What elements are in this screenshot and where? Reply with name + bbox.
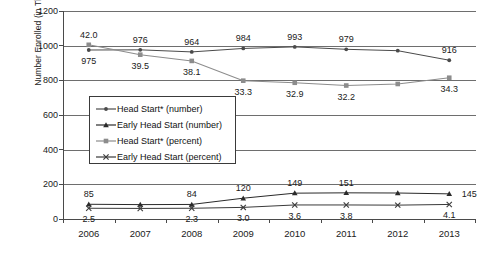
data-point-square	[395, 82, 400, 87]
x-tick-2009: 2009	[233, 228, 254, 239]
point-label: 33.3	[234, 87, 252, 97]
x-tickmark	[269, 219, 270, 223]
y-tickmark	[59, 115, 63, 116]
data-point-dot	[87, 48, 91, 52]
x-tickmark	[321, 219, 322, 223]
y-tickmark	[59, 11, 63, 12]
data-point-square	[447, 75, 452, 80]
series-line-0	[89, 47, 450, 60]
legend-item-0[interactable]: Head Start* (number)	[95, 101, 231, 117]
x-tickmark	[424, 219, 425, 223]
legend-item-3[interactable]: Early Head Start (percent)	[95, 149, 231, 165]
x-tick-2011: 2011	[336, 228, 356, 239]
x-tickmark	[372, 219, 373, 223]
data-point-square	[86, 43, 91, 48]
point-label: 85	[84, 189, 94, 199]
point-label: 42.0	[80, 30, 98, 40]
y-tickmark	[59, 80, 63, 81]
data-point-square	[292, 80, 297, 85]
data-point-dot	[138, 48, 142, 52]
data-point-dot	[104, 107, 108, 111]
x-tickmark	[218, 219, 219, 223]
legend-item-1[interactable]: Early Head Start (number)	[95, 117, 231, 133]
legend: Head Start* (number)Early Head Start (nu…	[89, 96, 236, 164]
y-tickmark	[59, 149, 63, 150]
x-tick-2010: 2010	[284, 228, 305, 239]
x-tick-2006: 2006	[78, 228, 99, 239]
point-label: 34.3	[440, 84, 458, 94]
x-tick-2007: 2007	[130, 228, 151, 239]
point-label: 3.8	[340, 211, 353, 221]
x-tick-2008: 2008	[181, 228, 202, 239]
legend-marker-x-icon	[95, 151, 117, 163]
legend-label: Early Head Start (percent)	[117, 151, 222, 163]
point-label: 979	[339, 34, 354, 44]
data-point-dot	[293, 45, 297, 49]
data-point-square	[344, 83, 349, 88]
y-tickmark	[59, 219, 63, 220]
point-label: 2.5	[82, 214, 95, 224]
point-label: 2.3	[185, 214, 198, 224]
data-point-dot	[396, 49, 400, 53]
legend-label: Early Head Start (number)	[117, 119, 222, 131]
point-label: 984	[236, 33, 251, 43]
data-point-square	[189, 59, 194, 64]
legend-label: Head Start* (percent)	[117, 135, 202, 147]
data-point-square	[104, 139, 109, 144]
point-label: 38.1	[183, 67, 201, 77]
legend-label: Head Start* (number)	[117, 103, 203, 115]
data-point-square	[138, 52, 143, 57]
point-label: 3.0	[237, 213, 250, 223]
data-point-dot	[447, 58, 451, 62]
data-point-dot	[344, 47, 348, 51]
legend-item-2[interactable]: Head Start* (percent)	[95, 133, 231, 149]
point-label: 149	[287, 178, 302, 188]
x-tickmark	[115, 219, 116, 223]
point-label: 976	[133, 35, 148, 45]
point-label: 145	[462, 189, 477, 199]
x-tickmark	[166, 219, 167, 223]
point-label: 32.9	[286, 89, 304, 99]
x-tickmark	[63, 219, 64, 223]
point-label: 916	[442, 45, 457, 55]
line-chart: Number Enrolled (in Thousands) 020040060…	[0, 0, 494, 253]
data-point-dot	[241, 47, 245, 51]
point-label: 39.5	[131, 61, 149, 71]
y-tickmark	[59, 45, 63, 46]
x-tick-2013: 2013	[439, 228, 460, 239]
legend-marker-dot-icon	[95, 103, 117, 115]
point-label: 3.6	[288, 211, 301, 221]
point-label: 32.2	[337, 92, 355, 102]
point-label: 120	[236, 183, 251, 193]
legend-marker-square-icon	[95, 135, 117, 147]
x-tick-2012: 2012	[387, 228, 408, 239]
point-label: 4.1	[443, 210, 456, 220]
point-label: 993	[287, 32, 302, 42]
point-label: 84	[187, 189, 197, 199]
point-label: 975	[81, 56, 96, 66]
data-point-square	[241, 78, 246, 83]
x-tickmark	[475, 219, 476, 223]
legend-marker-triangle-icon	[95, 119, 117, 131]
y-tickmark	[59, 184, 63, 185]
point-label: 151	[339, 178, 354, 188]
data-point-dot	[190, 50, 194, 54]
point-label: 964	[184, 37, 199, 47]
